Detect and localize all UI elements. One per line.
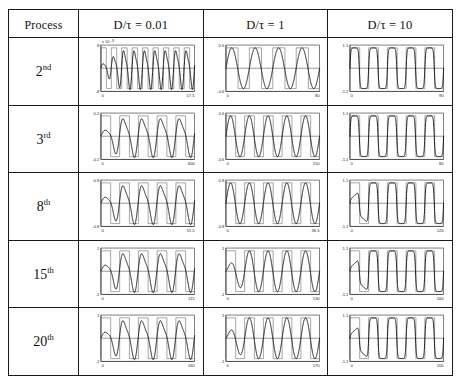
y-tick-max-label: 1 xyxy=(222,313,225,318)
table-row: 2ndx 10-38-8017.50.6-0.60801.1-1.1090 xyxy=(9,38,453,106)
plot-holder-p8-d10: 1.1-1.10120 xyxy=(328,173,452,240)
header-label-d10: D/τ = 10 xyxy=(368,18,413,32)
plot-holder-p3-d10: 1.1-1.1080 xyxy=(328,106,452,173)
plot-holder-p15-d10: 1.1-1.10160 xyxy=(328,241,452,308)
x-tick-max-label: 80 xyxy=(315,93,320,98)
table-row: 3rd0.2-0.206000.6-0.601501.1-1.1080 xyxy=(9,105,453,173)
y-tick-min-label: -0.6 xyxy=(217,156,225,161)
x-tick-max-label: 120 xyxy=(437,228,445,233)
plot-holder-p2-d1: 0.6-0.6080 xyxy=(204,38,328,105)
x-tick-max-label: 160 xyxy=(188,363,196,368)
response-waveform-trace xyxy=(101,321,195,360)
grid-table: Process D/τ = 0.01 D/τ = 1 D/τ = 10 2ndx… xyxy=(8,9,453,376)
x-tick-min-label: 0 xyxy=(351,228,354,233)
header-cell-d1: D/τ = 1 xyxy=(203,10,328,38)
x-tick-min-label: 0 xyxy=(226,363,229,368)
x-tick-max-label: 200 xyxy=(437,363,445,368)
x-tick-min-label: 0 xyxy=(101,363,104,368)
row-ordinal-suffix: th xyxy=(44,198,51,208)
x-tick-max-label: 600 xyxy=(188,161,196,166)
plot-cell-p2-d10: 1.1-1.1090 xyxy=(328,38,453,106)
plot-holder-p3-d1: 0.6-0.60150 xyxy=(204,106,328,173)
y-tick-min-label: -1.1 xyxy=(341,156,349,161)
x-tick-min-label: 0 xyxy=(351,296,354,301)
y-tick-min-label: -8 xyxy=(96,89,100,94)
plot-svg: 1-10130 xyxy=(204,241,328,308)
x-tick-max-label: 90 xyxy=(439,93,444,98)
y-tick-max-label: 1 xyxy=(97,313,100,318)
x-tick-min-label: 0 xyxy=(226,296,229,301)
y-tick-min-label: -0.8 xyxy=(217,224,225,229)
y-tick-max-label: 0.8 xyxy=(218,178,224,183)
y-tick-max-label: 1.1 xyxy=(343,178,349,183)
plot-svg: 1.1-1.10160 xyxy=(328,241,452,308)
row-ordinal-suffix: nd xyxy=(43,63,52,73)
row-ordinal-number: 15 xyxy=(33,267,47,282)
y-tick-max-label: 1.1 xyxy=(343,111,349,116)
table-row: 15th1-101151-101301.1-1.10160 xyxy=(9,240,453,308)
plot-holder-p2-d10: 1.1-1.1090 xyxy=(328,38,452,105)
plot-cell-p15-d001: 1-10115 xyxy=(79,240,204,308)
row-label-p20: 20th xyxy=(33,334,54,349)
plot-svg: 1.1-1.10120 xyxy=(328,173,452,240)
response-waveform-trace xyxy=(101,253,195,292)
plot-holder-p8-d1: 0.8-0.8036.5 xyxy=(204,173,328,240)
plot-cell-p20-d001: 1-10160 xyxy=(79,308,204,376)
plot-cell-p3-d10: 1.1-1.1080 xyxy=(328,105,453,173)
x-tick-max-label: 130 xyxy=(312,296,320,301)
plot-svg: 0.6-0.60150 xyxy=(204,106,328,173)
y-tick-max-label: 0.6 xyxy=(218,43,224,48)
plot-cell-p20-d1: 1-10170 xyxy=(203,308,328,376)
y-tick-max-label: 1 xyxy=(97,246,100,251)
plot-cell-p2-d1: 0.6-0.6080 xyxy=(203,38,328,106)
y-axis-scale-note: x 10 xyxy=(102,39,110,44)
plot-cell-p15-d10: 1.1-1.10160 xyxy=(328,240,453,308)
x-tick-min-label: 0 xyxy=(351,363,354,368)
plot-svg: 0.8-0.8051.5 xyxy=(79,173,203,240)
x-tick-min-label: 0 xyxy=(226,93,229,98)
y-tick-min-label: -1.1 xyxy=(341,89,349,94)
x-tick-max-label: 115 xyxy=(188,296,195,301)
y-axis-scale-exponent: -3 xyxy=(110,38,114,43)
y-tick-min-label: -0.6 xyxy=(217,89,225,94)
plot-svg: 1-10160 xyxy=(79,308,203,375)
header-label-d1: D/τ = 1 xyxy=(246,18,284,32)
response-waveform-trace xyxy=(101,118,195,157)
header-label-d001: D/τ = 0.01 xyxy=(113,18,168,32)
y-tick-min-label: -1 xyxy=(96,291,100,296)
plot-cell-p20-d10: 1.1-1.10200 xyxy=(328,308,453,376)
grid-body: 2ndx 10-38-8017.50.6-0.60801.1-1.10903rd… xyxy=(9,38,453,376)
row-label-cell-p3: 3rd xyxy=(9,105,79,173)
x-tick-max-label: 80 xyxy=(439,161,444,166)
row-label-cell-p15: 15th xyxy=(9,240,79,308)
row-ordinal-suffix: th xyxy=(47,333,54,343)
y-tick-max-label: 1.1 xyxy=(343,43,349,48)
plot-svg: 1.1-1.1090 xyxy=(328,38,452,105)
row-label-p15: 15th xyxy=(33,267,54,282)
x-tick-min-label: 0 xyxy=(351,93,354,98)
row-ordinal-number: 2 xyxy=(36,64,43,79)
y-tick-min-label: -0.8 xyxy=(92,224,100,229)
row-ordinal-number: 20 xyxy=(33,334,47,349)
x-tick-min-label: 0 xyxy=(101,93,104,98)
y-tick-min-label: -1 xyxy=(96,359,100,364)
y-tick-max-label: 1.1 xyxy=(343,313,349,318)
row-ordinal-number: 8 xyxy=(37,199,44,214)
y-tick-min-label: -1 xyxy=(220,291,224,296)
x-tick-min-label: 0 xyxy=(226,228,229,233)
x-tick-min-label: 0 xyxy=(101,161,104,166)
process-dtau-table: Process D/τ = 0.01 D/τ = 1 D/τ = 10 2ndx… xyxy=(8,9,452,369)
x-tick-min-label: 0 xyxy=(101,228,104,233)
x-tick-max-label: 160 xyxy=(437,296,445,301)
row-label-cell-p20: 20th xyxy=(9,308,79,376)
plot-svg: 1-10115 xyxy=(79,241,203,308)
plot-svg: 0.2-0.20600 xyxy=(79,106,203,173)
plot-svg: 1.1-1.10200 xyxy=(328,308,452,375)
header-cell-process: Process xyxy=(9,10,79,38)
plot-holder-p15-d001: 1-10115 xyxy=(79,241,203,308)
plot-holder-p20-d10: 1.1-1.10200 xyxy=(328,308,452,375)
plot-cell-p2-d001: x 10-38-8017.5 xyxy=(79,38,204,106)
figure-root: Process D/τ = 0.01 D/τ = 1 D/τ = 10 2ndx… xyxy=(0,0,460,377)
y-tick-min-label: -1.1 xyxy=(341,359,349,364)
row-label-p2: 2nd xyxy=(36,64,52,79)
